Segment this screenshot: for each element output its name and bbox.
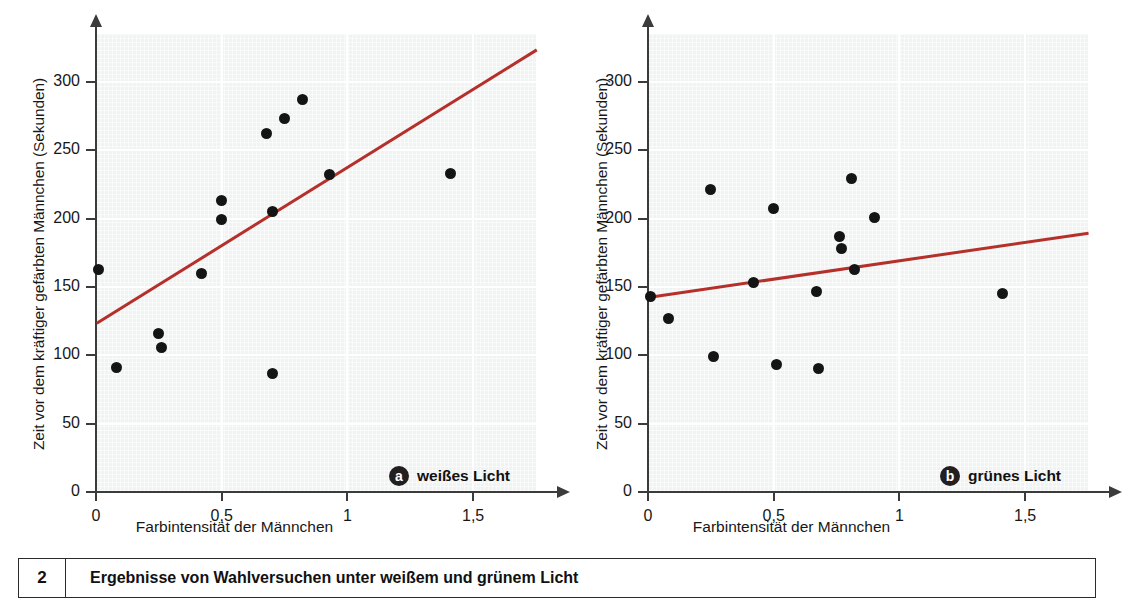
gridline-vertical — [346, 34, 348, 492]
y-tick-label: 0 — [34, 482, 80, 500]
data-point — [445, 168, 456, 179]
x-tick-label: 1,5 — [995, 507, 1055, 525]
y-tick — [86, 286, 95, 288]
x-tick-label: 0,5 — [744, 507, 804, 525]
y-tick-label: 150 — [586, 277, 632, 295]
x-tick — [647, 492, 649, 501]
panel-title-a: weißes Licht — [417, 467, 510, 485]
x-tick — [898, 492, 900, 501]
y-tick-label: 100 — [586, 345, 632, 363]
y-tick-label: 200 — [586, 209, 632, 227]
y-tick — [638, 149, 647, 151]
y-tick — [86, 491, 95, 493]
gridline-horizontal — [648, 81, 1088, 83]
y-tick — [638, 354, 647, 356]
gridline-horizontal — [648, 149, 1088, 151]
x-tick-label: 1 — [317, 507, 377, 525]
gridline-vertical — [773, 34, 775, 492]
data-point — [297, 94, 308, 105]
y-tick-label: 250 — [586, 140, 632, 158]
plot-area-a — [96, 34, 536, 492]
y-tick-label: 50 — [586, 414, 632, 432]
data-point — [708, 351, 719, 362]
gridline-horizontal — [648, 423, 1088, 425]
chart-panel-b: Zeit vor dem kräftiger gefärbten Männche… — [557, 0, 1114, 552]
y-axis-arrow-icon — [90, 14, 102, 27]
figure-caption-bar: 2 Ergebnisse von Wahlversuchen unter wei… — [18, 558, 1096, 598]
data-point — [811, 286, 822, 297]
gridline-vertical — [898, 34, 900, 492]
gridline-horizontal — [96, 149, 536, 151]
y-tick-label: 0 — [586, 482, 632, 500]
x-tick — [95, 492, 97, 501]
chart-panel-a: Zeit vor dem kräftiger gefärbten Männche… — [0, 0, 557, 552]
x-tick — [1024, 492, 1026, 501]
data-point — [111, 362, 122, 373]
data-point — [771, 359, 782, 370]
data-point — [196, 268, 207, 279]
figure-area: Zeit vor dem kräftiger gefärbten Männche… — [0, 0, 1114, 552]
data-point — [267, 206, 278, 217]
data-point — [849, 264, 860, 275]
data-point — [156, 342, 167, 353]
data-point — [645, 291, 656, 302]
y-tick — [86, 354, 95, 356]
x-tick — [346, 492, 348, 501]
gridline-horizontal — [648, 218, 1088, 220]
gridline-horizontal — [96, 218, 536, 220]
panel-tag-b: b grünes Licht — [940, 466, 1061, 486]
gridline-vertical — [221, 34, 223, 492]
y-tick — [86, 218, 95, 220]
x-axis-line — [647, 491, 1109, 493]
gridline-horizontal — [96, 354, 536, 356]
x-tick — [472, 492, 474, 501]
figure-number: 2 — [19, 559, 66, 597]
gridline-horizontal — [96, 81, 536, 83]
y-tick — [638, 423, 647, 425]
y-tick — [638, 286, 647, 288]
x-tick-label: 1,5 — [443, 507, 503, 525]
y-tick — [638, 218, 647, 220]
x-tick-label: 0 — [66, 507, 126, 525]
panel-badge-a-icon: a — [389, 466, 409, 486]
panel-title-b: grünes Licht — [968, 467, 1061, 485]
y-axis-arrow-icon — [642, 14, 654, 27]
y-tick — [86, 423, 95, 425]
y-axis-line — [95, 27, 97, 492]
data-point — [267, 368, 278, 379]
x-axis-line — [95, 491, 557, 493]
x-tick — [221, 492, 223, 501]
gridline-horizontal — [96, 423, 536, 425]
data-point — [834, 231, 845, 242]
panel-tag-a: a weißes Licht — [389, 466, 510, 486]
x-axis-arrow-icon — [1109, 486, 1122, 498]
y-tick-label: 300 — [34, 72, 80, 90]
data-point — [663, 313, 674, 324]
x-tick-label: 0,5 — [192, 507, 252, 525]
y-tick — [86, 81, 95, 83]
gridline-vertical — [1024, 34, 1026, 492]
y-tick — [638, 81, 647, 83]
x-tick-label: 0 — [618, 507, 678, 525]
y-tick-label: 50 — [34, 414, 80, 432]
y-tick — [86, 149, 95, 151]
y-tick-label: 150 — [34, 277, 80, 295]
y-tick-label: 300 — [586, 72, 632, 90]
data-point — [869, 212, 880, 223]
panel-badge-b-icon: b — [940, 466, 960, 486]
x-tick-label: 1 — [869, 507, 929, 525]
y-tick-label: 200 — [34, 209, 80, 227]
y-tick — [638, 491, 647, 493]
figure-caption-text: Ergebnisse von Wahlversuchen unter weiße… — [66, 569, 578, 587]
data-point — [93, 264, 104, 275]
y-tick-label: 100 — [34, 345, 80, 363]
x-tick — [773, 492, 775, 501]
gridline-horizontal — [96, 286, 536, 288]
y-axis-line — [647, 27, 649, 492]
gridline-vertical — [472, 34, 474, 492]
y-tick-label: 250 — [34, 140, 80, 158]
